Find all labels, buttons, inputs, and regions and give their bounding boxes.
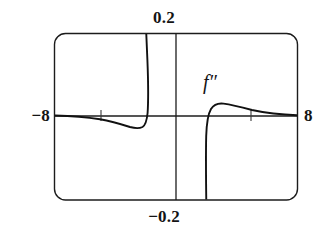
x-max-label: 8 [304,107,326,124]
curve-label-f-double-prime: f″ [203,72,217,92]
x-min-label: −8 [14,107,50,124]
y-min-label: −0.2 [0,208,328,225]
y-max-label: 0.2 [0,9,328,26]
graph-figure: 0.2 −0.2 −8 8 f″ [0,0,328,232]
